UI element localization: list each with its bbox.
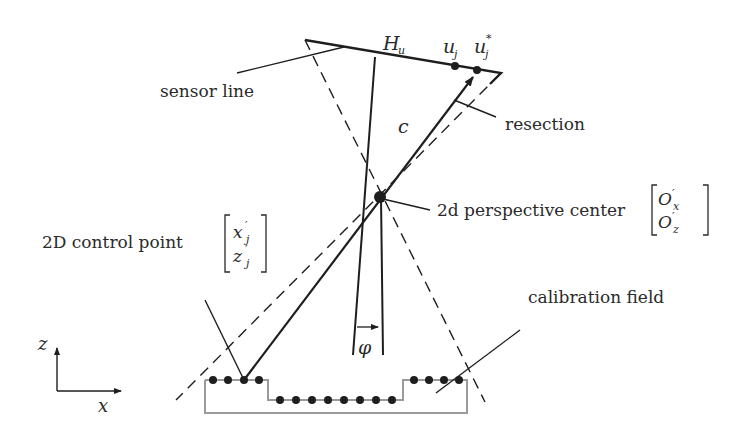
fov-dashed-left (305, 40, 485, 402)
image-point-uj-star-label: u j * (474, 32, 492, 61)
perspective-center-leader (383, 199, 430, 210)
svg-text:j: j (243, 257, 250, 270)
svg-text:O: O (658, 189, 672, 209)
svg-text:x: x (233, 222, 243, 242)
control-point-vector: x ′ j z ′ j (225, 215, 266, 272)
svg-text:z: z (672, 223, 679, 236)
vertical-reference-line (381, 197, 383, 355)
image-point-uj (451, 62, 459, 70)
calibration-field-outline (205, 380, 467, 413)
svg-text:O: O (658, 212, 672, 232)
image-point-uj-star (473, 66, 481, 74)
resection-label: resection (505, 114, 585, 134)
svg-text:′: ′ (245, 219, 248, 232)
calibration-field-leader (436, 330, 520, 393)
x-axis-label: x (98, 395, 108, 416)
sensor-line-leader (237, 47, 344, 73)
phi-angle-label: φ (358, 336, 372, 358)
perspective-center-point (374, 191, 386, 203)
svg-text:u: u (398, 44, 405, 57)
resection-diagram: z x sensor line resection 2d perspective… (0, 0, 752, 432)
principal-axis-line (353, 57, 375, 355)
sensor-line-label: sensor line (160, 81, 254, 101)
z-axis-label: z (37, 333, 48, 354)
svg-text:′: ′ (672, 187, 675, 200)
sensor-line-group (237, 40, 501, 84)
control-point-label: 2D control point (42, 232, 183, 252)
calibration-field-label: calibration field (528, 287, 664, 307)
control-point-leader (205, 300, 243, 378)
principal-point-label: H u (382, 32, 405, 57)
svg-text:z: z (232, 246, 243, 266)
coordinate-axes: z x (37, 333, 121, 416)
perspective-center-vector: O ′ x O ′ z (652, 185, 708, 236)
focal-length-label: c (398, 115, 409, 137)
image-point-uj-label: u j (443, 35, 458, 61)
control-ray (244, 77, 473, 380)
svg-text:*: * (486, 32, 492, 45)
perspective-center-label: 2d perspective center (437, 200, 626, 220)
